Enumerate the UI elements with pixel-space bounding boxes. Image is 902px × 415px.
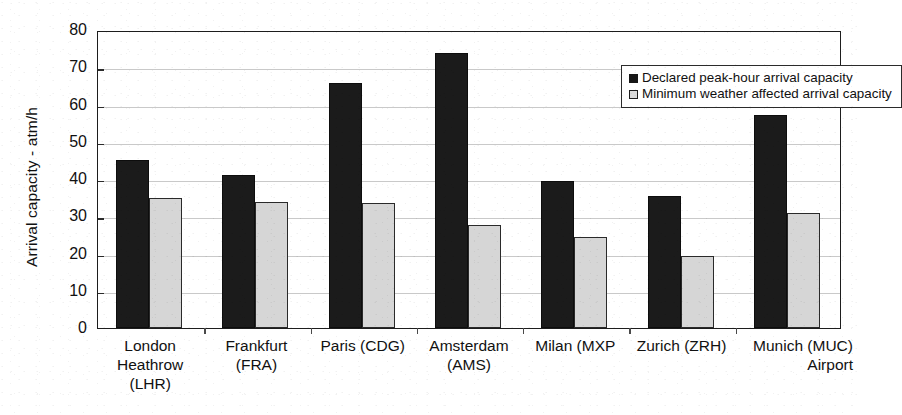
x-tick-mark xyxy=(736,328,737,334)
y-tick-label: 20 xyxy=(35,245,87,263)
legend-label-minimum: Minimum weather affected arrival capacit… xyxy=(642,86,892,102)
y-tick-label: 10 xyxy=(35,282,87,300)
y-tick-label: 30 xyxy=(35,207,87,225)
x-tick-mark xyxy=(204,328,205,334)
y-tick-label: 40 xyxy=(35,170,87,188)
y-tick-label: 60 xyxy=(35,96,87,114)
legend-swatch-light-icon xyxy=(629,90,638,99)
x-tick-mark xyxy=(629,328,630,334)
x-tick-mark xyxy=(311,328,312,334)
y-tick-label: 70 xyxy=(35,58,87,76)
legend-item-minimum: Minimum weather affected arrival capacit… xyxy=(629,86,892,102)
legend-swatch-dark-icon xyxy=(629,74,638,83)
y-tick-label: 80 xyxy=(35,21,87,39)
bar-declared xyxy=(754,115,787,328)
x-tick-mark xyxy=(417,328,418,334)
plot-area: Declared peak-hour arrival capacity Mini… xyxy=(97,31,841,329)
legend-item-declared: Declared peak-hour arrival capacity xyxy=(629,70,892,86)
legend-label-declared: Declared peak-hour arrival capacity xyxy=(642,70,853,86)
legend: Declared peak-hour arrival capacity Mini… xyxy=(621,65,902,108)
bar-minimum xyxy=(787,213,820,328)
y-tick-label: 50 xyxy=(35,133,87,151)
x-tick-mark xyxy=(523,328,524,334)
y-tick-label: 0 xyxy=(35,319,87,337)
x-category-label: Munich (MUC) Airport xyxy=(723,336,853,374)
